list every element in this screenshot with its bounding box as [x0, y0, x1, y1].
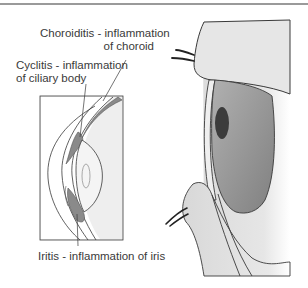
cross-section-inset [40, 96, 123, 240]
eyeball [212, 80, 275, 213]
choroiditis-label-line2: of choroid [40, 40, 154, 53]
cyclitis-label: Cyclitis - inflammation of ciliary body [16, 59, 128, 85]
cyclitis-label-line2: of ciliary body [16, 72, 128, 85]
cyclitis-label-line1: Cyclitis - inflammation [16, 59, 128, 72]
choroiditis-label: Choroiditis - inflammation of choroid [40, 27, 154, 53]
upper-eyelashes [172, 50, 194, 61]
iritis-label-line1: Iritis - inflammation of iris [38, 250, 165, 263]
choroiditis-label-line1: Choroiditis - inflammation [40, 27, 154, 40]
pupil [215, 107, 229, 139]
side-view-face [166, 20, 290, 276]
iritis-label: Iritis - inflammation of iris [38, 250, 165, 263]
